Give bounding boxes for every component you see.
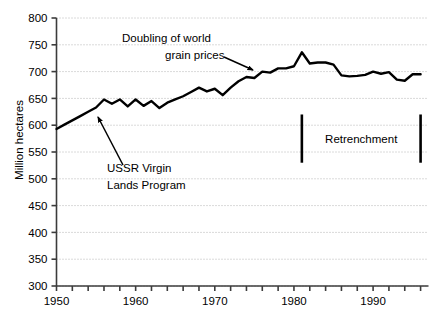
x-axis-tick-label: 1950 (44, 295, 70, 307)
annotation-grain-prices-arrow (224, 57, 253, 70)
y-axis-tick-labels-group: 800750700650600550500450400350300 (28, 12, 47, 292)
y-axis-tick-label: 650 (28, 93, 47, 105)
x-axis-tick-labels-group: 19501960197019801990 (44, 295, 386, 307)
y-axis-tick-label: 800 (28, 12, 47, 24)
y-axis-tick-label: 750 (28, 39, 47, 51)
y-axis-tick-label: 300 (28, 280, 47, 292)
annotation-grain-prices-line2: grain prices (165, 49, 225, 61)
retrenchment-label: Retrenchment (325, 133, 398, 145)
x-axis-tick-label: 1970 (202, 295, 228, 307)
y-axis-tick-label: 700 (28, 66, 47, 78)
chart-container: Million hectares 80075070065060055050045… (0, 0, 445, 330)
annotation-ussr-line2: Lands Program (107, 179, 186, 191)
y-axis-tick-label: 550 (28, 146, 47, 158)
annotation-ussr-arrow (98, 117, 123, 165)
annotation-grain-prices-line1: Doubling of world (122, 32, 211, 44)
gridlines-group (57, 18, 429, 286)
y-axis-tick-label: 400 (28, 227, 47, 239)
line-chart-plot: 800750700650600550500450400350300 195019… (0, 0, 445, 330)
x-axis-tick-label: 1960 (123, 295, 149, 307)
y-axis-tick-label: 450 (28, 200, 47, 212)
y-axis-tick-label: 350 (28, 253, 47, 265)
y-axis-tick-label: 500 (28, 173, 47, 185)
annotation-ussr-line1: USSR Virgin (107, 162, 171, 174)
x-axis-tick-label: 1990 (360, 295, 386, 307)
x-axis-tick-label: 1980 (281, 295, 307, 307)
annotations-group: Doubling of worldgrain pricesUSSR Virgin… (98, 32, 421, 191)
y-axis-tick-label: 600 (28, 119, 47, 131)
